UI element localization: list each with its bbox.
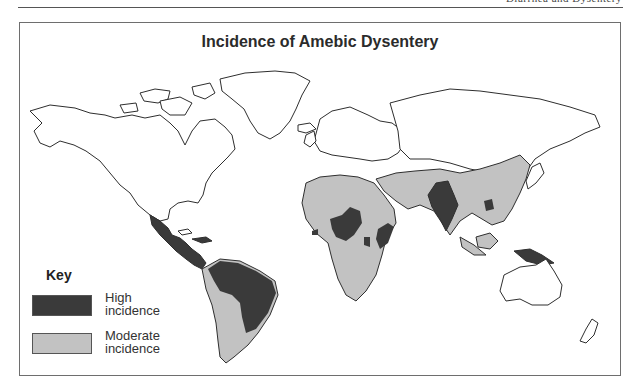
key-item-moderate: Moderate incidence xyxy=(32,329,185,355)
map-figure: Incidence of Amebic Dysentery xyxy=(19,22,621,376)
map-key: Key High incidence Moderate incidence xyxy=(32,267,185,367)
high-incidence-swatch xyxy=(32,295,92,316)
key-label-moderate-line2: incidence xyxy=(105,342,185,355)
top-rule xyxy=(18,7,623,8)
region-australia xyxy=(500,259,562,305)
key-label-high-line2: incidence xyxy=(105,304,185,317)
region-north-america xyxy=(30,105,235,221)
region-europe xyxy=(314,107,405,161)
running-head: Diarrhea and Dysentery xyxy=(506,0,622,4)
moderate-incidence-swatch xyxy=(32,333,92,354)
key-title: Key xyxy=(46,267,185,283)
region-mexico-central-america xyxy=(150,215,206,269)
region-greenland xyxy=(220,71,310,139)
key-item-high: High incidence xyxy=(32,291,185,317)
